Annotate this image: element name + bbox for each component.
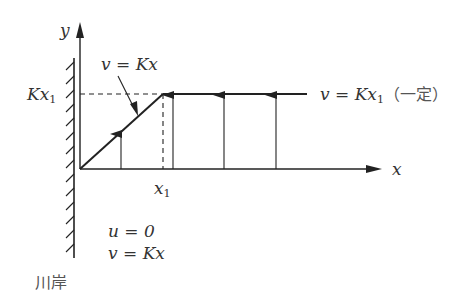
velocity-arrows — [121, 95, 276, 169]
riverbank-label: 川岸 — [35, 273, 67, 292]
slope-equation-label: v = Kx — [101, 54, 158, 74]
diagram-svg: y x Kx1 x1 v = Kx v = Kx1（一定） u = 0 v = … — [0, 0, 468, 304]
x1-tick-label: x1 — [154, 178, 171, 200]
x-axis — [80, 165, 382, 173]
kx1-label: Kx1 — [26, 84, 56, 106]
velocity-profile-diagram: y x Kx1 x1 v = Kx v = Kx1（一定） u = 0 v = … — [0, 0, 468, 304]
slope-pointer — [118, 76, 138, 116]
y-axis — [76, 22, 84, 169]
velocity-profile — [80, 94, 307, 169]
constant-velocity-label: v = Kx1（一定） — [320, 84, 448, 106]
x-axis-arrow-icon — [366, 165, 382, 173]
boundary-condition-v: v = Kx — [108, 243, 165, 263]
riverbank-wall — [66, 58, 74, 258]
y-axis-label: y — [59, 20, 70, 40]
y-axis-arrow-icon — [76, 22, 84, 38]
boundary-condition-u: u = 0 — [108, 221, 155, 241]
x-axis-label: x — [392, 159, 402, 179]
